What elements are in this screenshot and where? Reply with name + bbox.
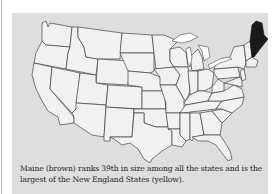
state-new-york — [214, 45, 246, 69]
us-map — [12, 13, 268, 163]
state-kansas — [142, 91, 166, 109]
state-maine-highlighted — [250, 21, 268, 57]
state-north-dakota — [120, 33, 154, 53]
page-margin-rule — [1, 0, 2, 194]
figure-caption: Maine (brown) ranks 39th in size among a… — [20, 164, 266, 185]
state-michigan — [190, 49, 204, 71]
state-washington — [42, 21, 72, 47]
lake-superior — [172, 33, 198, 43]
state-new-mexico — [104, 107, 134, 141]
state-arizona — [72, 103, 106, 137]
state-wisconsin — [170, 47, 188, 67]
state-west-virginia — [212, 79, 224, 93]
state-arkansas — [166, 113, 180, 129]
state-mississippi — [180, 113, 190, 141]
map-figure: Maine (brown) ranks 39th in size among a… — [12, 13, 268, 194]
state-florida — [192, 135, 232, 161]
state-colorado — [106, 85, 142, 109]
state-ohio — [198, 69, 214, 91]
